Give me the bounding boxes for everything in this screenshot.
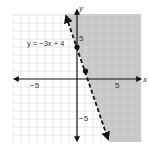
y-tick-5: 5 [79, 34, 84, 43]
y-axis-label: y [78, 3, 83, 13]
x-tick-neg5: −5 [30, 81, 40, 90]
x-tick-5: 5 [115, 81, 120, 90]
equation-label: y = −3x + 4 [27, 39, 64, 48]
y-tick-neg5: −5 [79, 114, 89, 123]
x-axis-label: x [142, 74, 147, 84]
point-0-4 [74, 44, 79, 49]
point-1-1 [83, 68, 88, 73]
coordinate-plane: y x −5 5 5 −5 y = −3x + 4 [0, 0, 149, 149]
